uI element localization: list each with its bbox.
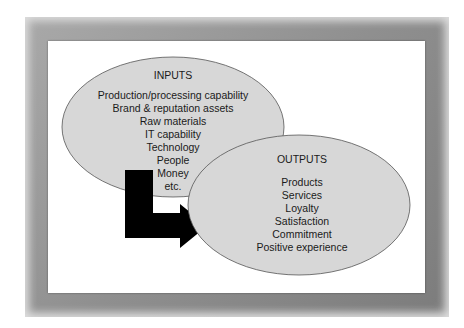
inputs-item: Raw materials <box>140 115 207 127</box>
inputs-item: Brand & reputation assets <box>113 102 234 114</box>
outputs-item: Services <box>282 189 322 201</box>
outputs-item: Loyalty <box>285 202 319 214</box>
inputs-item: IT capability <box>145 128 202 140</box>
outputs-title: OUTPUTS <box>277 153 327 165</box>
inputs-item: Production/processing capability <box>98 89 249 101</box>
input-output-diagram: INPUTS Production/processing capability … <box>0 0 464 328</box>
inputs-item: etc. <box>165 180 182 192</box>
inputs-item: Money <box>157 167 189 179</box>
inputs-item: People <box>157 154 190 166</box>
outputs-item: Products <box>281 176 322 188</box>
inputs-title: INPUTS <box>154 69 193 81</box>
outputs-group: OUTPUTS Products Services Loyalty Satisf… <box>188 135 410 275</box>
outputs-item: Positive experience <box>256 241 347 253</box>
outputs-item: Commitment <box>272 228 332 240</box>
inputs-item: Technology <box>146 141 200 153</box>
outputs-item: Satisfaction <box>275 215 329 227</box>
